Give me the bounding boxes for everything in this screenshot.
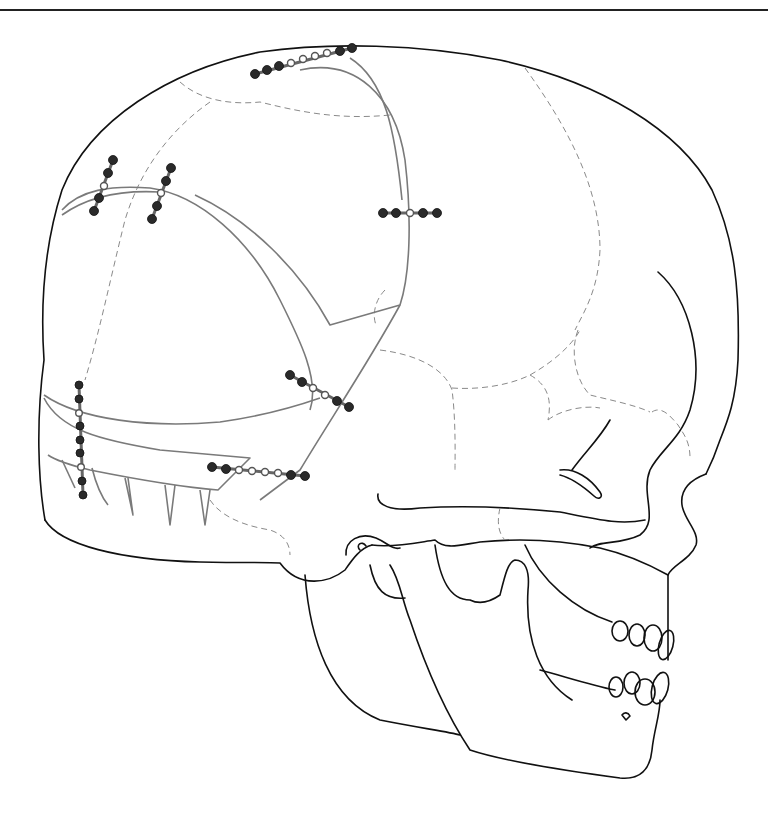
skull-illustration	[0, 0, 768, 818]
parietal-plate	[379, 209, 442, 218]
cranium-outline	[39, 46, 739, 581]
frontal-plate-1	[90, 156, 118, 216]
vertex-plate	[251, 44, 357, 79]
lower-teeth	[609, 670, 672, 705]
facial-skeleton	[346, 272, 706, 660]
cranial-sutures	[85, 68, 690, 555]
upper-teeth	[612, 621, 677, 661]
bandeau-vertical-plate	[75, 381, 87, 499]
osteotomy-lines	[44, 58, 409, 525]
bandeau-horizontal-plate	[208, 463, 310, 481]
mandible	[305, 545, 660, 778]
